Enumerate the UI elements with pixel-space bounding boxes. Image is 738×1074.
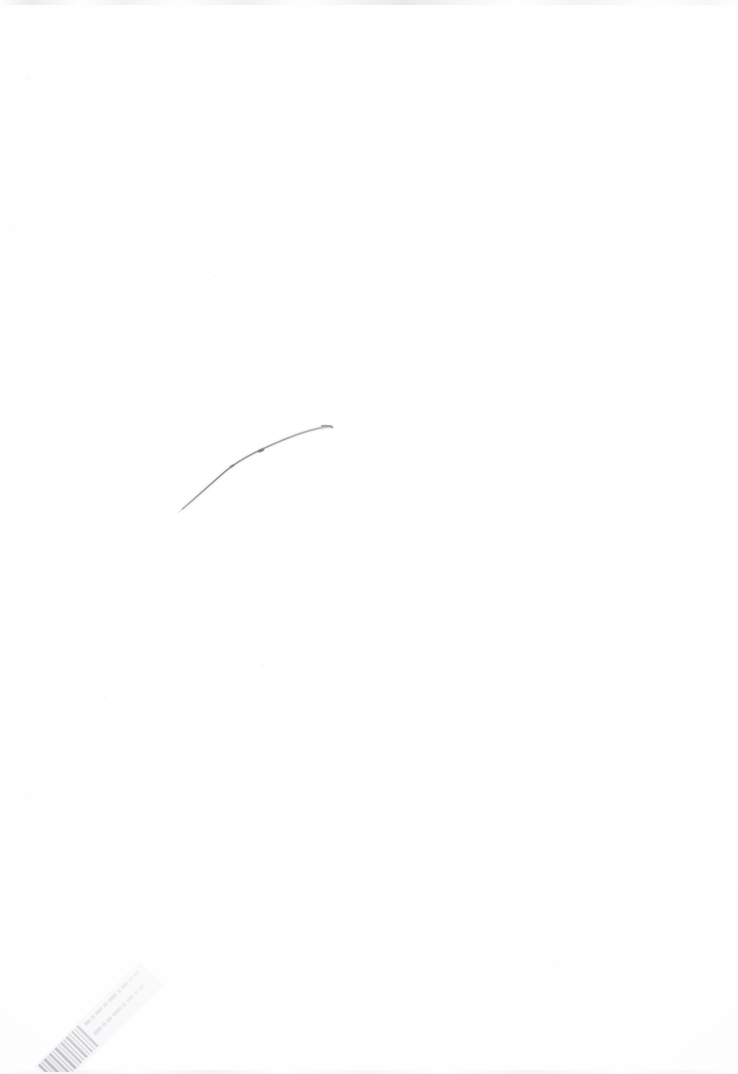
pencil-arc: [0, 0, 738, 1074]
scan-edge-noise-top: [0, 0, 738, 5]
dust-speck: [514, 453, 516, 455]
archive-barcode-label: [26, 922, 196, 1072]
dust-speck: [26, 796, 28, 798]
dust-speck: [515, 962, 517, 964]
dust-speck: [485, 870, 487, 872]
dust-speck: [28, 78, 30, 80]
dust-speck: [425, 328, 427, 330]
dust-speck: [659, 999, 661, 1001]
dust-speck: [493, 294, 495, 296]
dust-speck: [137, 287, 139, 289]
paper-background: [0, 0, 738, 1074]
scan-edge-noise-bottom: [0, 1070, 738, 1074]
dust-speck: [400, 17, 402, 19]
dust-speck: [70, 436, 72, 438]
dust-speck: [193, 765, 195, 767]
dust-speck: [213, 275, 215, 277]
dust-speck: [282, 876, 284, 878]
dust-speck: [10, 224, 12, 226]
dust-speck: [368, 764, 370, 766]
dust-speck: [457, 15, 459, 17]
scanned-page: [0, 0, 738, 1074]
dust-speck: [557, 961, 559, 963]
dust-speck: [261, 665, 263, 667]
dust-speck: [652, 528, 654, 530]
dust-speck: [104, 696, 106, 698]
dust-speck: [175, 695, 177, 697]
dust-speck: [89, 678, 91, 680]
dust-speck: [474, 173, 476, 175]
dust-speck: [645, 151, 647, 153]
